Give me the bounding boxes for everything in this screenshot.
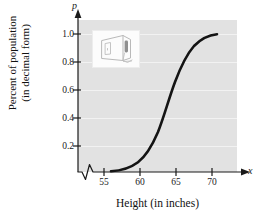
axes-and-curve [0,0,260,223]
x-axis-variable-label: x [248,166,252,176]
x-tick-label-65: 65 [171,178,181,188]
x-axis-title: Height (in inches) [78,198,237,210]
y-axis-title: Percent of population (in decimal form) [6,0,32,143]
x-tick-label-70: 70 [207,178,217,188]
figure-container: 1.0 0.8 0.6 0.4 0.2 55 60 65 70 p x Perc… [0,0,260,223]
y-tick-label-0.6: 0.6 [62,86,74,96]
logistic-curve [111,34,217,171]
y-tick-label-1.0: 1.0 [62,30,74,40]
y-axis-title-line2: (in decimal form) [19,0,32,143]
y-tick-marks [73,34,81,146]
x-tick-label-60: 60 [135,178,145,188]
y-tick-labels: 1.0 0.8 0.6 0.4 0.2 [44,0,74,223]
x-tick-label-55: 55 [99,178,109,188]
y-axis-variable-label: p [72,1,77,11]
y-tick-label-0.8: 0.8 [62,58,74,68]
y-axis-title-line1: Percent of population [6,0,19,143]
y-tick-label-0.2: 0.2 [62,142,74,152]
y-tick-label-0.4: 0.4 [62,114,74,124]
